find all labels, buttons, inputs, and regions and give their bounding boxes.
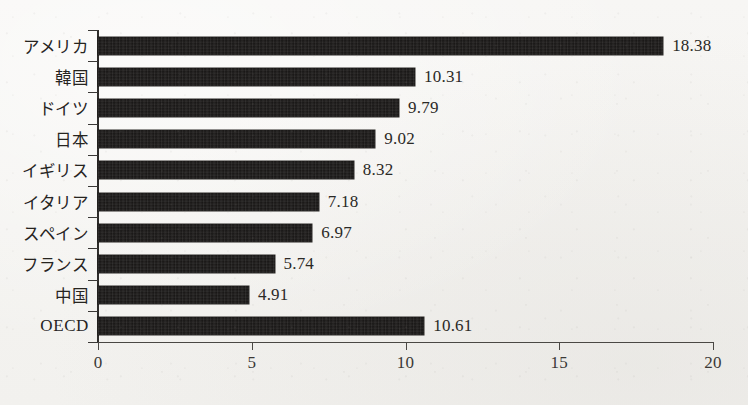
category-label: イギリス: [22, 158, 89, 182]
y-tick-mark: [88, 280, 98, 281]
bar: [98, 193, 319, 211]
category-label: フランス: [22, 252, 89, 276]
y-tick-mark: [88, 30, 98, 31]
x-tick-mark: [406, 342, 407, 350]
category-label: 日本: [55, 127, 89, 151]
y-tick-mark: [88, 155, 98, 156]
bar-value-label: 6.97: [321, 223, 352, 243]
bar: [98, 37, 663, 55]
bar: [98, 99, 399, 117]
bar: [98, 224, 312, 242]
y-tick-mark: [88, 217, 98, 218]
category-label: アメリカ: [23, 34, 89, 58]
bar-value-label: 5.74: [284, 254, 315, 274]
bar: [98, 286, 249, 304]
category-label: OECD: [40, 316, 89, 336]
x-tick-label: 20: [704, 353, 721, 373]
x-tick-label: 15: [551, 353, 568, 373]
bar-row: スペイン6.97: [98, 217, 713, 248]
y-tick-mark: [88, 248, 98, 249]
bar-row: 韓国10.31: [98, 61, 713, 92]
bar-value-label: 4.91: [258, 285, 289, 305]
x-tick-mark: [252, 342, 253, 350]
x-tick-mark: [713, 342, 714, 350]
bar: [98, 130, 375, 148]
x-tick-label: 5: [247, 353, 256, 373]
category-label: スペイン: [23, 221, 89, 245]
bar: [98, 255, 275, 273]
x-tick-mark: [98, 342, 99, 350]
y-tick-mark: [88, 124, 98, 125]
category-label: イタリア: [23, 190, 89, 214]
bar-row: ドイツ9.79: [98, 92, 713, 123]
bar-row: アメリカ18.38: [98, 30, 713, 61]
bar: [98, 161, 354, 179]
x-tick-mark: [559, 342, 560, 350]
bar-value-label: 9.02: [384, 129, 415, 149]
bar-chart: 05101520 アメリカ18.38韓国10.31ドイツ9.79日本9.02イギ…: [0, 0, 748, 405]
bar-row: 中国4.91: [98, 280, 713, 311]
plot-area: 05101520 アメリカ18.38韓国10.31ドイツ9.79日本9.02イギ…: [98, 30, 713, 342]
bar-value-label: 7.18: [328, 192, 359, 212]
bar-row: OECD10.61: [98, 311, 713, 342]
bar-value-label: 8.32: [363, 160, 394, 180]
category-label: ドイツ: [39, 96, 89, 120]
y-tick-mark: [88, 311, 98, 312]
x-tick-label: 10: [397, 353, 414, 373]
bar-row: イギリス8.32: [98, 155, 713, 186]
category-label: 韓国: [55, 65, 89, 89]
y-tick-mark: [88, 342, 98, 343]
y-tick-mark: [88, 92, 98, 93]
category-label: 中国: [55, 283, 89, 307]
bar-row: フランス5.74: [98, 248, 713, 279]
x-tick-label: 0: [94, 353, 103, 373]
bar: [98, 317, 424, 335]
bar-value-label: 18.38: [672, 36, 711, 56]
y-tick-mark: [88, 61, 98, 62]
bar-value-label: 10.61: [433, 316, 472, 336]
bar-value-label: 9.79: [408, 98, 439, 118]
y-tick-mark: [88, 186, 98, 187]
bar-row: 日本9.02: [98, 124, 713, 155]
bar: [98, 68, 415, 86]
bar-row: イタリア7.18: [98, 186, 713, 217]
bar-value-label: 10.31: [424, 67, 463, 87]
